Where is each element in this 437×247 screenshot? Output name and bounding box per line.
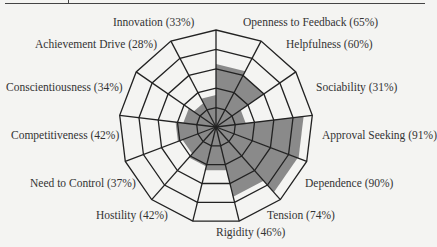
label-need-to-control: Need to Control (37%) (30, 177, 136, 190)
label-achievement-drive: Achievement Drive (28%) (35, 38, 157, 51)
label-approval-seeking: Approval Seeking (91%) (322, 129, 437, 142)
label-rigidity: Rigidity (46%) (216, 226, 285, 239)
value-wedges (176, 64, 304, 197)
label-hostility: Hostility (42%) (96, 209, 168, 222)
label-dependence: Dependence (90%) (305, 177, 393, 190)
label-innovation: Innovation (33%) (113, 16, 194, 29)
label-tension: Tension (74%) (267, 209, 335, 222)
label-helpfulness: Helpfulness (60%) (286, 38, 373, 51)
label-conscientiousness: Conscientiousness (34%) (6, 81, 123, 94)
label-sociability: Sociability (31%) (316, 81, 397, 94)
label-openness-to-feedback: Openness to Feedback (65%) (243, 16, 378, 29)
label-competitiveness: Competitiveness (42%) (11, 129, 119, 142)
